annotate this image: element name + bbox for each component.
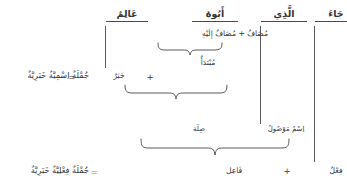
brace-sila-to-fail bbox=[140, 138, 290, 156]
label-mudaf-pair: مُضَافٌ + مُضَافٌ إِلَيْهِ bbox=[191, 29, 279, 38]
connector-aalimun-to-khabar bbox=[105, 26, 106, 68]
label-fil: فِعْلٌ bbox=[315, 166, 347, 175]
connector-alladhi-to-ism-mawsul bbox=[260, 26, 261, 124]
head-word-alladhi: الَّذِي bbox=[261, 8, 307, 22]
result-nominal-sentence: جُمْلَةٌ اِسْمِيَّةٌ خَبَرِيَّةٌ bbox=[31, 70, 89, 80]
label-sila: صِلَة bbox=[184, 125, 214, 134]
label-ism-mawsul: اِسْمٌ مَوْصُولٌ bbox=[256, 125, 316, 134]
operator-plus-verbal: + bbox=[281, 167, 293, 176]
diagram-canvas: جَاءَ الَّذِي أَبُوهُ عَالِمٌ مُضَافٌ + … bbox=[0, 0, 347, 190]
operator-plus-nominal: + bbox=[144, 73, 156, 82]
label-fail: فَاعِل bbox=[215, 166, 253, 175]
head-word-jaa: جَاءَ bbox=[315, 8, 347, 22]
result-verbal-sentence: جُمْلَةٌ فِعْلِيَّةٌ خَبَرِيَّةٌ bbox=[31, 165, 89, 175]
connector-jaa-to-fil bbox=[314, 26, 315, 162]
head-word-aalimun: عَالِمٌ bbox=[106, 8, 148, 22]
operator-equals-verbal: = bbox=[88, 168, 100, 177]
brace-nominal-to-sila bbox=[124, 84, 228, 100]
label-mubtada: مُبْتَدَأٌ bbox=[185, 58, 231, 67]
head-word-abuuhu: أَبُوهُ bbox=[192, 8, 238, 22]
brace-mudaf-to-mubtada bbox=[157, 42, 223, 56]
label-khabar: خَبَرٌ bbox=[102, 71, 136, 80]
